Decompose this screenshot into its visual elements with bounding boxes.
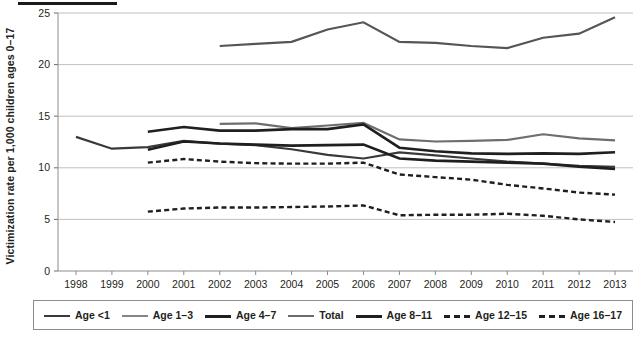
x-axis-tick-label: 2009 (460, 278, 484, 290)
series-line (220, 123, 615, 142)
legend-item-label: Age 8–11 (387, 309, 433, 321)
legend-item[interactable]: Total (288, 309, 343, 321)
y-axis-tick-label: 25 (38, 7, 50, 19)
x-axis-tick-label: 2005 (316, 278, 340, 290)
x-axis-tick-label: 1998 (64, 278, 88, 290)
legend-item-label: Age 1–3 (153, 309, 193, 321)
chart-legend: Age <1Age 1–3Age 4–7TotalAge 8–11Age 12–… (33, 300, 633, 330)
x-axis-tick-label: 2011 (532, 278, 555, 290)
series-line (148, 124, 615, 153)
y-axis-tick-label: 20 (38, 58, 50, 70)
legend-item[interactable]: Age 16–17 (539, 309, 622, 321)
y-axis-tick-label: 15 (38, 110, 50, 122)
legend-item-label: Age 12–15 (475, 309, 527, 321)
legend-item[interactable]: Age 1–3 (122, 309, 193, 321)
legend-item-label: Age 16–17 (570, 309, 622, 321)
x-axis-tick-label: 2013 (603, 278, 627, 290)
y-axis-tick-label: 10 (38, 161, 50, 173)
legend-item[interactable]: Age <1 (44, 309, 110, 321)
x-axis-tick-label: 2004 (280, 278, 304, 290)
legend-item-label: Total (319, 309, 343, 321)
x-axis-tick-label: 2002 (208, 278, 232, 290)
legend-item-label: Age <1 (75, 309, 110, 321)
x-axis-tick-label: 2003 (244, 278, 268, 290)
x-axis-tick-label: 2010 (496, 278, 520, 290)
chart-page: Victimization rate per 1,000 children ag… (0, 0, 641, 346)
chart-plot-area: Victimization rate per 1,000 children ag… (0, 0, 641, 290)
line-chart-svg: 0510152025199819992000200120022003200420… (0, 0, 641, 290)
x-axis-tick-label: 2012 (567, 278, 591, 290)
x-axis-tick-label: 2006 (352, 278, 376, 290)
series-line (220, 17, 615, 48)
x-axis-tick-label: 2007 (388, 278, 412, 290)
y-axis-tick-label: 5 (44, 213, 50, 225)
x-axis-tick-label: 2001 (172, 278, 196, 290)
y-axis-tick-label: 0 (44, 265, 50, 277)
legend-item[interactable]: Age 8–11 (356, 309, 433, 321)
x-axis-tick-label: 1999 (100, 278, 124, 290)
legend-item[interactable]: Age 4–7 (205, 309, 276, 321)
legend-item-label: Age 4–7 (236, 309, 276, 321)
x-axis-tick-label: 2008 (424, 278, 448, 290)
x-axis-tick-label: 2000 (136, 278, 160, 290)
legend-item[interactable]: Age 12–15 (444, 309, 527, 321)
